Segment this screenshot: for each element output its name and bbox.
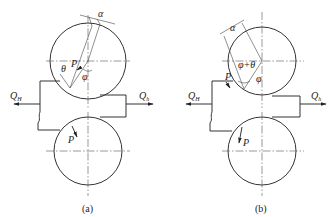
force-lower-label-b: P [242, 137, 249, 148]
q-exit-label-b: Qh [311, 90, 321, 102]
force-arrow-b [226, 82, 230, 88]
force-lower-label-a: P [67, 134, 74, 145]
strip-top-exit-b [272, 96, 300, 112]
caption-b: (b) [255, 203, 267, 215]
phi-label-a: φ [82, 71, 88, 82]
panel-b: α φ+θ φ P P QH Qh (b) [186, 12, 326, 215]
alpha-label-a: α [98, 8, 104, 19]
strip-bottom-exit-a [100, 112, 126, 117]
force-line-a [70, 26, 92, 88]
alpha-ext-1-a [89, 17, 92, 26]
force-label-a: P [70, 58, 77, 69]
q-exit-label-a: Qh [139, 90, 149, 102]
rolling-force-diagram: α θ P φ P QH Qh (a) α φ+θ φ P P [0, 0, 330, 217]
offset-line-a [88, 24, 100, 61]
q-entry-label-a: QH [10, 90, 22, 102]
caption-a: (a) [82, 203, 93, 215]
theta-line-a [60, 74, 70, 88]
strip-bottom-entry-b [210, 112, 232, 131]
strip-bottom-exit-b [272, 112, 300, 117]
theta-label-a: θ [61, 63, 66, 74]
strip-top-exit-a [100, 95, 126, 112]
panel-a: α θ P φ P QH Qh (a) [10, 8, 153, 215]
alpha-label-b: α [230, 22, 236, 33]
phi-plus-theta-label-b: φ+θ [238, 59, 255, 70]
force-label-b: P [224, 71, 231, 82]
strip-bottom-entry-a [38, 112, 60, 130]
force-arrow-a [77, 68, 80, 70]
q-entry-label-b: QH [188, 90, 200, 102]
phi-label-b: φ [256, 73, 262, 84]
force-lower-arrow-b [239, 127, 242, 143]
